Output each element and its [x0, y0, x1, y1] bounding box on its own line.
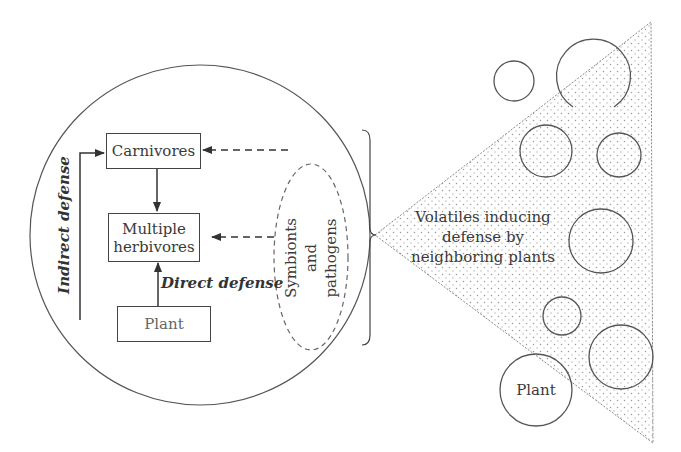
neighbor-plant-circle	[494, 61, 534, 101]
plant-node: Plant	[117, 306, 211, 342]
symbionts-pathogens-label: Symbionts and pathogens	[281, 198, 341, 318]
plant-label: Plant	[144, 315, 184, 333]
arrow-indirect-defense	[80, 153, 104, 320]
direct-defense-label: Direct defense	[161, 274, 283, 292]
herbivores-node: Multiple herbivores	[108, 213, 200, 262]
carnivores-label: Carnivores	[112, 142, 195, 160]
carnivores-node: Carnivores	[106, 133, 201, 169]
volatiles-label: Volatiles inducing defense by neighborin…	[408, 207, 558, 267]
indirect-defense-label: Indirect defense	[55, 145, 73, 305]
neighbor-plant-label: Plant	[506, 381, 566, 399]
herbivores-label-line2: herbivores	[113, 238, 194, 256]
right-brace	[362, 130, 376, 345]
herbivores-label-line1: Multiple	[122, 220, 186, 238]
